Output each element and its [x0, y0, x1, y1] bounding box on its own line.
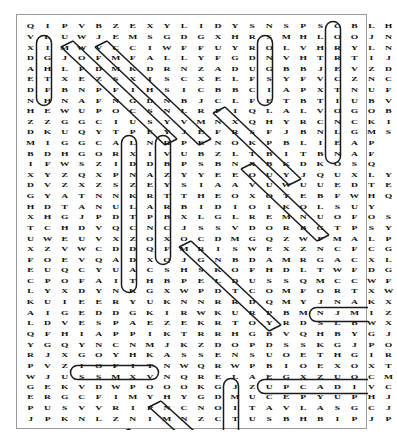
- grid-cell: P: [380, 233, 397, 244]
- grid-cell: F: [261, 127, 278, 138]
- grid-cell: I: [227, 403, 244, 414]
- grid-cell: E: [329, 138, 346, 149]
- grid-row: LYXDYNKGXWPDTCOMFORTXW: [22, 286, 397, 297]
- grid-cell: X: [312, 85, 329, 96]
- grid-cell: I: [192, 201, 209, 212]
- grid-cell: V: [90, 223, 107, 234]
- grid-cell: L: [124, 138, 141, 149]
- grid-cell: O: [175, 233, 192, 244]
- grid-cell: O: [90, 360, 107, 371]
- grid-cell: G: [312, 223, 329, 234]
- grid-cell: Z: [312, 371, 329, 382]
- grid-cell: I: [210, 244, 227, 255]
- grid-cell: Q: [295, 276, 312, 287]
- grid-cell: A: [346, 138, 363, 149]
- grid-cell: A: [278, 106, 295, 117]
- grid-cell: N: [158, 371, 175, 382]
- grid-cell: E: [210, 371, 227, 382]
- grid-cell: O: [90, 148, 107, 159]
- grid-cell: X: [22, 169, 39, 180]
- grid-cell: P: [312, 233, 329, 244]
- grid-cell: P: [90, 106, 107, 117]
- grid-cell: G: [73, 116, 90, 127]
- grid-cell: F: [158, 244, 175, 255]
- grid-cell: G: [56, 138, 73, 149]
- grid-cell: U: [261, 180, 278, 191]
- grid-cell: T: [227, 413, 244, 424]
- grid-cell: F: [22, 254, 39, 265]
- grid-cell: I: [141, 148, 158, 159]
- grid-cell: K: [56, 413, 73, 424]
- grid-cell: V: [39, 360, 56, 371]
- grid-cell: Q: [22, 21, 39, 32]
- grid-cell: B: [346, 21, 363, 32]
- grid-cell: N: [73, 413, 90, 424]
- grid-cell: V: [363, 382, 380, 393]
- grid-cell: L: [158, 53, 175, 64]
- grid-cell: Q: [175, 371, 192, 382]
- grid-row: AIGEDDGKIRWKURPBMNJMIZ: [22, 307, 397, 318]
- grid-cell: O: [329, 32, 346, 43]
- grid-cell: U: [124, 116, 141, 127]
- grid-cell: I: [39, 21, 56, 32]
- grid-cell: Y: [312, 392, 329, 403]
- grid-cell: M: [227, 392, 244, 403]
- grid-cell: D: [73, 286, 90, 297]
- grid-cell: A: [261, 254, 278, 265]
- grid-cell: S: [192, 350, 209, 361]
- grid-cell: G: [210, 382, 227, 393]
- grid-cell: C: [90, 138, 107, 149]
- grid-cell: Y: [295, 297, 312, 308]
- grid-cell: O: [329, 106, 346, 117]
- grid-cell: B: [295, 63, 312, 74]
- grid-cell: C: [363, 371, 380, 382]
- grid-cell: F: [73, 276, 90, 287]
- grid-cell: X: [158, 233, 175, 244]
- grid-cell: G: [124, 95, 141, 106]
- grid-cell: L: [261, 106, 278, 117]
- grid-row: YGQYNCNMJKZDOPDSSKGJPO: [22, 339, 397, 350]
- grid-cell: Z: [22, 116, 39, 127]
- grid-cell: I: [107, 276, 124, 287]
- grid-cell: B: [158, 212, 175, 223]
- grid-cell: Z: [56, 169, 73, 180]
- grid-cell: A: [124, 318, 141, 329]
- grid-cell: R: [380, 350, 397, 361]
- grid-cell: D: [39, 201, 56, 212]
- grid-cell: W: [175, 286, 192, 297]
- grid-cell: J: [22, 413, 39, 424]
- grid-cell: P: [175, 159, 192, 170]
- grid-cell: Z: [210, 148, 227, 159]
- grid-cell: A: [312, 403, 329, 414]
- grid-cell: Y: [158, 127, 175, 138]
- grid-cell: B: [261, 329, 278, 340]
- grid-cell: H: [192, 191, 209, 202]
- grid-cell: Z: [90, 159, 107, 170]
- grid-cell: N: [346, 85, 363, 96]
- grid-cell: S: [261, 413, 278, 424]
- grid-cell: J: [158, 339, 175, 350]
- grid-cell: Q: [312, 169, 329, 180]
- grid-cell: J: [380, 403, 397, 414]
- grid-cell: G: [73, 350, 90, 361]
- grid-cell: T: [295, 148, 312, 159]
- grid-row: BDHGORXIVUBZLTBITBNAF: [22, 148, 397, 159]
- grid-cell: H: [22, 201, 39, 212]
- grid-cell: J: [175, 223, 192, 234]
- grid-cell: E: [90, 297, 107, 308]
- grid-cell: P: [363, 339, 380, 350]
- grid-cell: G: [56, 212, 73, 223]
- grid-cell: B: [312, 191, 329, 202]
- grid-cell: N: [73, 85, 90, 96]
- grid-cell: Y: [261, 318, 278, 329]
- grid-cell: D: [22, 85, 39, 96]
- grid-cell: S: [261, 74, 278, 85]
- grid-cell: C: [312, 116, 329, 127]
- grid-cell: C: [175, 403, 192, 414]
- grid-cell: J: [363, 32, 380, 43]
- grid-cell: M: [158, 413, 175, 424]
- grid-cell: E: [227, 169, 244, 180]
- grid-row: LDVESPAEZEKRTOYRDSLBWX: [22, 318, 397, 329]
- grid-row: GYATNNKRTTHEOXOTEBFWHQ: [22, 191, 397, 202]
- grid-cell: B: [278, 63, 295, 74]
